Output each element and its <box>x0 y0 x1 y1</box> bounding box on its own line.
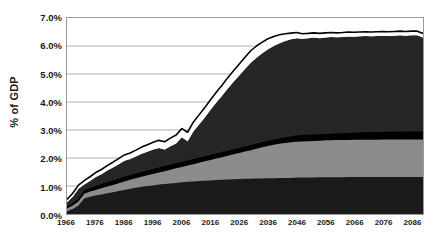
y-tick-label: 1.0% <box>18 181 62 192</box>
x-tick-label: 1966 <box>57 218 75 227</box>
x-tick-label: 1996 <box>144 218 162 227</box>
x-axis-tick-labels: 1966197619861996200620162026203620462056… <box>66 218 424 238</box>
y-tick-label: 5.0% <box>18 68 62 79</box>
x-tick-label: 1976 <box>86 218 104 227</box>
y-tick-label: 6.0% <box>18 40 62 51</box>
area-chart-svg <box>67 18 423 214</box>
x-tick-label: 2006 <box>173 218 191 227</box>
x-tick-label: 2026 <box>230 218 248 227</box>
x-tick-label: 2016 <box>201 218 219 227</box>
plot-area <box>66 17 424 215</box>
y-tick-label: 4.0% <box>18 96 62 107</box>
y-tick-label: 7.0% <box>18 12 62 23</box>
x-tick-label: 2056 <box>317 218 335 227</box>
x-tick-label: 2066 <box>346 218 364 227</box>
x-tick-label: 2076 <box>375 218 393 227</box>
y-tick-label: 3.0% <box>18 125 62 136</box>
y-tick-label: 0.0% <box>18 210 62 221</box>
y-tick-label: 2.0% <box>18 153 62 164</box>
x-tick-label: 2086 <box>404 218 422 227</box>
x-tick-label: 2036 <box>259 218 277 227</box>
y-axis-tick-labels: 7.0%6.0%5.0%4.0%3.0%2.0%1.0%0.0% <box>14 0 62 249</box>
chart-container: % of GDP 7.0%6.0%5.0%4.0%3.0%2.0%1.0%0.0… <box>0 0 440 249</box>
x-tick-label: 2046 <box>288 218 306 227</box>
x-tick-label: 1986 <box>115 218 133 227</box>
